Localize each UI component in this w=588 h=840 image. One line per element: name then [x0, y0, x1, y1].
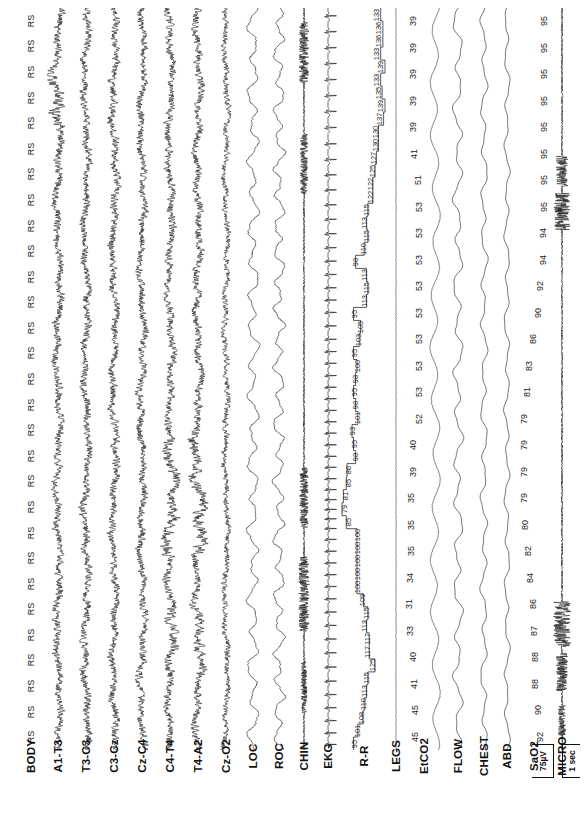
channel-loc[interactable]: LOC: [240, 0, 266, 840]
trace-czo2: [212, 8, 240, 750]
scale-bar-group: 75µV 1 sec: [524, 742, 586, 838]
trace-abd: [496, 8, 518, 750]
channel-label-c4t4: C4-T4: [156, 750, 184, 838]
channel-sao2[interactable]: 9595959595959595949492908683817979797980…: [518, 0, 550, 840]
channel-flow[interactable]: FLOW: [444, 0, 472, 840]
trace-c4t4: [156, 8, 184, 750]
channel-rr[interactable]: 1331361361331391331351391371301301271251…: [340, 0, 388, 840]
trace-legs: [388, 8, 404, 750]
channel-label-roc: ROC: [266, 750, 292, 838]
channel-label-chest: CHEST: [472, 750, 496, 838]
trace-a1t3: [44, 8, 72, 750]
channel-chin[interactable]: CHIN: [292, 0, 316, 840]
trace-body: [18, 8, 44, 750]
channel-label-flow: FLOW: [444, 750, 472, 838]
trace-flow: [444, 8, 472, 750]
trace-t4a2: [184, 8, 212, 750]
channel-a1t3[interactable]: A1-T3: [44, 0, 72, 840]
trace-loc: [240, 8, 266, 750]
channel-label-czo2: Cz-O2: [212, 750, 240, 838]
channel-micro[interactable]: MICRO: [550, 0, 574, 840]
trace-chest: [472, 8, 496, 750]
trace-rr: [340, 8, 388, 750]
channel-label-czc4: Cz-C4: [128, 750, 156, 838]
channel-legs[interactable]: LEGS: [388, 0, 404, 840]
channel-czc4[interactable]: Cz-C4: [128, 0, 156, 840]
trace-sao2: [518, 8, 550, 750]
channel-label-abd: ABD: [496, 750, 518, 838]
channel-chest[interactable]: CHEST: [472, 0, 496, 840]
channel-label-legs: LEGS: [388, 750, 404, 838]
channel-t4a2[interactable]: T4-A2: [184, 0, 212, 840]
channel-etco2[interactable]: 3939393939415153535353535353535240393535…: [404, 0, 444, 840]
channel-c3cz[interactable]: C3-Cz: [100, 0, 128, 840]
trace-etco2: [404, 8, 444, 750]
psg-chart: RSRSRSRSRSRSRSRSRSRSRSRSRSRSRSRSRSRSRSRS…: [0, 0, 588, 840]
amplitude-scale-bar: 75µV: [532, 744, 554, 778]
channel-czo2[interactable]: Cz-O2: [212, 0, 240, 840]
channel-c4t4[interactable]: C4-T4: [156, 0, 184, 840]
channel-label-rr: R-R: [340, 750, 388, 838]
channel-label-a1t3: A1-T3: [44, 750, 72, 838]
channel-body[interactable]: RSRSRSRSRSRSRSRSRSRSRSRSRSRSRSRSRSRSRSRS…: [18, 0, 44, 840]
trace-micro: [550, 8, 574, 750]
trace-c3cz: [100, 8, 128, 750]
trace-chin: [292, 8, 316, 750]
trace-czc4: [128, 8, 156, 750]
channel-label-t4a2: T4-A2: [184, 750, 212, 838]
channel-roc[interactable]: ROC: [266, 0, 292, 840]
channel-t3c3[interactable]: T3-C3: [72, 0, 100, 840]
channel-label-loc: LOC: [240, 750, 266, 838]
trace-t3c3: [72, 8, 100, 750]
channel-label-body: BODY: [18, 750, 44, 838]
channel-label-etco2: EtCO2: [404, 750, 444, 838]
time-scale-label: 1 sec: [567, 750, 577, 771]
channel-abd[interactable]: ABD: [496, 0, 518, 840]
trace-ekg: [316, 8, 340, 750]
channel-label-chin: CHIN: [292, 750, 316, 838]
channel-label-t3c3: T3-C3: [72, 750, 100, 838]
amplitude-scale-label: 75µV: [538, 751, 548, 771]
channel-label-c3cz: C3-Cz: [100, 750, 128, 838]
channel-ekg[interactable]: EKG: [316, 0, 340, 840]
channel-label-ekg: EKG: [316, 750, 340, 838]
trace-roc: [266, 8, 292, 750]
time-scale-bar: 1 sec: [562, 744, 580, 778]
